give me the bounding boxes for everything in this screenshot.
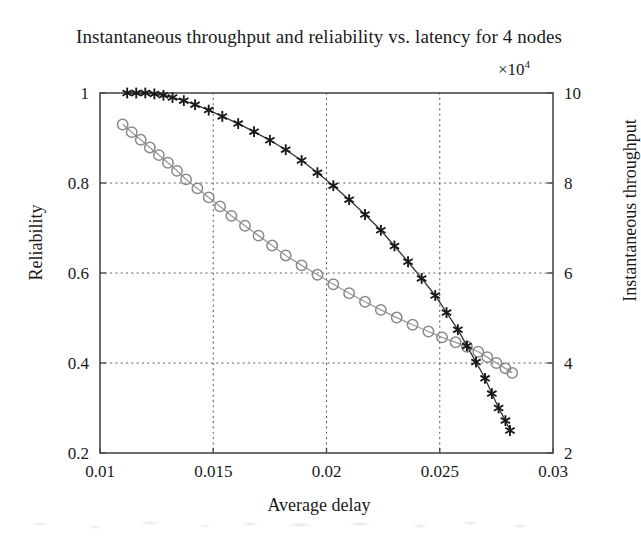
series-marker [471,357,480,368]
series-marker [265,135,274,146]
gridlines [100,93,553,453]
series-marker [487,388,496,399]
y-tick-label-right: 2 [564,444,573,463]
data-series-layer [117,88,517,436]
series-marker [494,403,503,414]
series-marker [505,425,514,436]
y-tick-label-left: 0.8 [68,174,89,193]
x-tick-label: 0.03 [538,462,568,481]
x-tick-label: 0.01 [85,462,115,481]
y-tick-label-right: 8 [564,174,573,193]
series-marker [233,118,242,129]
x-axis-label: Average delay [0,495,638,516]
x-tick-label: 0.025 [421,462,459,481]
y-tick-label-left: 0.2 [68,444,89,463]
y-tick-label-left: 0.4 [68,354,90,373]
y-axis-label-right: Instantaneous throughput [620,71,641,351]
data-series-throughput [123,88,515,436]
series-line [127,93,510,431]
y-tick-label-left: 1 [81,84,90,103]
series-marker [204,105,213,116]
series-line [123,125,513,373]
y-tick-label-left: 0.6 [68,264,89,283]
series-marker [190,99,199,110]
series-marker [329,180,338,191]
y-tick-label-right: 6 [564,264,573,283]
y-tick-label-right: 4 [564,354,573,373]
series-marker [313,167,322,178]
data-series-reliability [117,119,517,378]
y-axis-label-left: Reliability [26,173,47,313]
series-marker [297,155,306,166]
x-tick-label: 0.02 [312,462,342,481]
series-marker [480,373,489,384]
series-marker [281,144,290,155]
series-marker [501,415,510,426]
y-tick-label-right: 10 [564,84,581,103]
series-marker [218,111,227,122]
scan-artifact [0,516,638,541]
series-marker [249,126,258,137]
x-tick-label: 0.015 [194,462,232,481]
series-marker [179,95,188,106]
